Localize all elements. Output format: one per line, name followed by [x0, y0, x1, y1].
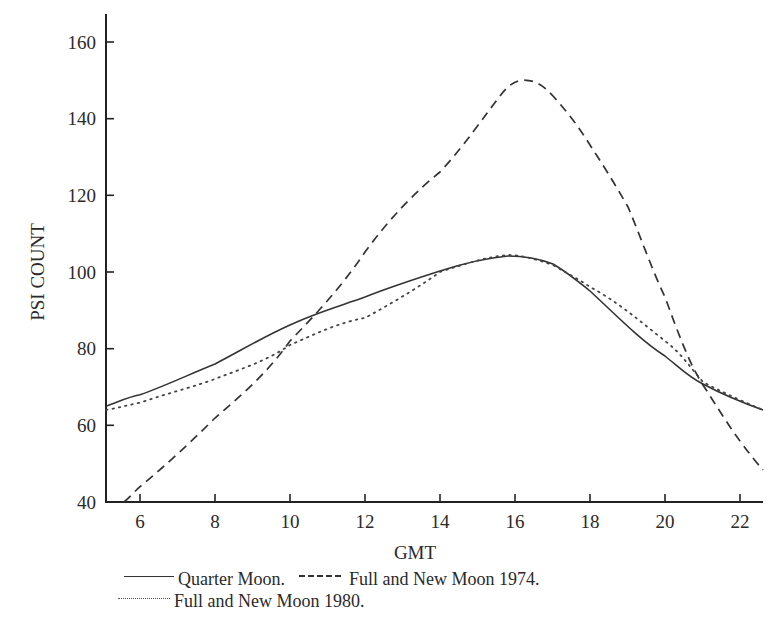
legend-item-quarter-moon: Quarter Moon.	[124, 568, 285, 590]
legend-row-1: Quarter Moon. Full and New Moon 1974.	[124, 568, 553, 590]
legend-row-2: Full and New Moon 1980.	[124, 590, 553, 612]
x-tick-14: 14	[431, 511, 451, 532]
y-tick-40: 40	[77, 492, 96, 513]
x-tick-6: 6	[135, 511, 145, 532]
x-tick-16: 16	[506, 511, 525, 532]
x-tick-labels: 6 8 10 12 14 16 18 20 22	[135, 511, 749, 532]
legend-item-1974: Full and New Moon 1974.	[299, 568, 540, 590]
legend-item-1980: Full and New Moon 1980.	[124, 590, 365, 612]
y-tick-140: 140	[68, 108, 97, 129]
y-ticks	[106, 42, 114, 425]
series-full-new-moon-1980	[106, 255, 763, 410]
x-tick-12: 12	[356, 511, 375, 532]
x-tick-8: 8	[210, 511, 220, 532]
x-tick-18: 18	[581, 511, 600, 532]
solid-line-swatch-icon	[124, 576, 174, 577]
legend-label-1980: Full and New Moon 1980.	[174, 590, 365, 612]
x-tick-22: 22	[731, 511, 750, 532]
y-axis-title: PSI COUNT	[27, 223, 48, 321]
legend: Quarter Moon. Full and New Moon 1974. Fu…	[124, 568, 553, 612]
y-tick-60: 60	[77, 415, 96, 436]
y-tick-120: 120	[68, 185, 97, 206]
y-tick-80: 80	[77, 338, 96, 359]
psi-count-chart: 40 60 80 100 120 140 160 6 8 10 12 14 16…	[0, 0, 784, 644]
x-tick-20: 20	[656, 511, 675, 532]
legend-label-quarter-moon: Quarter Moon.	[178, 568, 285, 590]
legend-label-1974: Full and New Moon 1974.	[349, 568, 540, 590]
dotted-line-swatch-icon	[118, 598, 170, 599]
x-tick-10: 10	[281, 511, 300, 532]
x-axis-title: GMT	[394, 542, 437, 563]
x-ticks	[140, 494, 740, 502]
y-tick-100: 100	[68, 262, 97, 283]
dashed-line-swatch-icon	[299, 575, 341, 577]
y-tick-labels: 40 60 80 100 120 140 160	[68, 32, 97, 513]
y-tick-160: 160	[68, 32, 97, 53]
series-full-new-moon-1974	[124, 80, 763, 502]
series-quarter-moon	[106, 256, 763, 410]
